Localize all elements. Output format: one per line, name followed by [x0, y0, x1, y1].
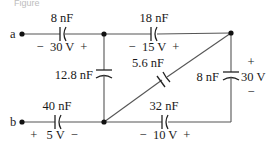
polarity-minus: − — [247, 85, 254, 99]
voltage-label: − 15 V + — [129, 40, 180, 54]
capacitor-8nf-right: 8 nF 30 V + − — [196, 33, 265, 122]
voltage-label: 30 V — [241, 70, 265, 84]
polarity-plus: + — [247, 55, 254, 69]
voltage-label: − 10 V + — [140, 128, 191, 142]
capacitance-label: 8 nF — [196, 70, 219, 84]
junction-top-right — [228, 30, 233, 35]
capacitance-label: 40 nF — [43, 99, 72, 113]
capacitor-40nf: 40 nF + 5 V − — [30, 99, 78, 142]
capacitor-network-diagram: Figure 8 nF − 30 V + 18 nF − 15 V + 12.8… — [0, 0, 272, 150]
voltage-label: + 5 V − — [30, 128, 78, 142]
capacitance-label: 12.8 nF — [55, 68, 93, 82]
capacitor-8nf-top: 8 nF − 30 V + — [37, 11, 88, 54]
capacitance-label: 32 nF — [150, 99, 179, 113]
capacitance-label: 5.6 nF — [132, 56, 164, 70]
junction-bottom-mid — [101, 119, 106, 124]
capacitor-18nf: 18 nF − 15 V + — [129, 11, 180, 54]
terminal-b-node — [19, 119, 24, 124]
figure-caption: Figure — [14, 0, 40, 8]
capacitance-label: 18 nF — [140, 11, 169, 25]
terminal-a-label: a — [10, 27, 16, 41]
voltage-label: − 30 V + — [37, 40, 88, 54]
top-branch — [22, 33, 231, 34]
terminal-b-label: b — [10, 115, 16, 129]
capacitance-label: 8 nF — [51, 11, 74, 25]
capacitor-32nf: 32 nF − 10 V + — [140, 99, 191, 142]
junction-top-mid — [101, 31, 106, 36]
terminal-a-node — [19, 31, 24, 36]
